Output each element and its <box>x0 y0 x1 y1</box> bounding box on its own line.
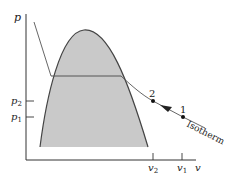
point-1-label: 1 <box>180 104 186 115</box>
saturation-dome <box>40 30 148 147</box>
point-2-label: 2 <box>149 88 155 99</box>
p1-label: p1 <box>11 111 22 124</box>
v2-label: v2 <box>148 162 158 175</box>
direction-arrow-icon <box>160 105 172 112</box>
pv-diagram: p v p2 p1 v2 v1 2 1 Isotherm <box>0 0 232 180</box>
p2-label: p2 <box>11 95 22 108</box>
state-point-2 <box>151 99 155 103</box>
isotherm-liquid-segment <box>34 22 51 76</box>
isotherm-label: Isotherm <box>185 119 227 147</box>
y-axis-label: p <box>14 11 21 24</box>
x-axis-label: v <box>195 162 201 173</box>
v1-label: v1 <box>177 162 187 175</box>
state-point-1 <box>181 115 185 119</box>
